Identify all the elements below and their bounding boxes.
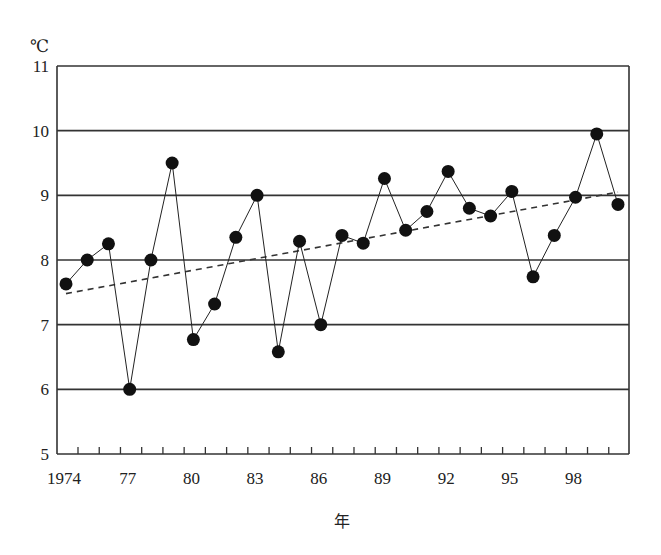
grid-lines (57, 66, 629, 389)
x-tick-label: 92 (438, 469, 455, 488)
y-tick-label: 5 (41, 445, 50, 464)
data-point-marker (102, 237, 115, 250)
data-point-marker (527, 270, 540, 283)
x-axis-ticks (78, 447, 609, 454)
x-tick-label: 83 (247, 469, 264, 488)
data-point-marker (60, 277, 73, 290)
y-tick-label: 11 (33, 57, 49, 76)
data-point-marker (357, 237, 370, 250)
data-point-marker (81, 254, 94, 267)
temperature-line-chart: ℃ 567891011 19747780838689929598 年 (0, 0, 661, 555)
data-point-marker (505, 185, 518, 198)
x-axis-tick-labels: 19747780838689929598 (47, 469, 582, 488)
x-tick-label: 89 (374, 469, 391, 488)
y-tick-label: 6 (41, 380, 50, 399)
data-point-marker (293, 235, 306, 248)
y-axis-tick-labels: 567891011 (32, 57, 50, 464)
data-point-marker (144, 254, 157, 267)
data-point-marker (335, 229, 348, 242)
data-point-marker (251, 189, 264, 202)
data-point-marker (314, 318, 327, 331)
x-tick-label: 98 (565, 469, 582, 488)
x-tick-label: 86 (310, 469, 327, 488)
x-axis-label: 年 (334, 513, 350, 530)
data-point-marker (548, 229, 561, 242)
y-tick-label: 8 (41, 251, 50, 270)
x-tick-label: 77 (119, 469, 137, 488)
data-point-marker (123, 383, 136, 396)
data-point-marker (378, 172, 391, 185)
data-point-marker (166, 157, 179, 170)
temperature-series (60, 127, 625, 395)
data-point-marker (463, 202, 476, 215)
x-tick-label: 95 (501, 469, 518, 488)
y-axis-unit-label: ℃ (30, 37, 49, 56)
data-point-marker (420, 205, 433, 218)
x-tick-label: 80 (183, 469, 200, 488)
x-tick-label: 1974 (47, 469, 82, 488)
data-point-marker (272, 345, 285, 358)
y-tick-label: 10 (32, 122, 49, 141)
data-point-marker (611, 198, 624, 211)
data-point-marker (569, 191, 582, 204)
data-point-marker (399, 224, 412, 237)
y-tick-label: 9 (41, 186, 50, 205)
data-point-marker (484, 210, 497, 223)
data-point-marker (229, 231, 242, 244)
data-point-marker (187, 333, 200, 346)
y-tick-label: 7 (41, 316, 50, 335)
data-point-marker (442, 165, 455, 178)
data-point-marker (590, 127, 603, 140)
data-point-marker (208, 297, 221, 310)
